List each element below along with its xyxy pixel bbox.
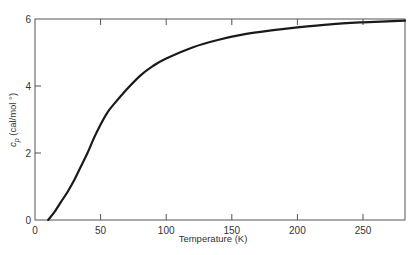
x-tick-label: 0 [32,225,38,236]
y-tick-label: 6 [25,14,31,25]
y-tick-label: 4 [25,81,31,92]
x-axis-label: Temperature (K) [179,233,248,244]
axis-ticks [35,19,363,220]
y-axis-label: cp (cal/mol °) [7,93,21,147]
y-axis-label-rest: (cal/mol °) [7,93,18,139]
y-tick-label: 2 [25,148,31,159]
x-tick-label: 250 [355,225,372,236]
plot-border [35,19,405,220]
x-tick-label: 100 [158,225,175,236]
y-tick-label: 0 [25,215,31,226]
plot-frame [35,19,405,220]
x-tick-label: 200 [289,225,306,236]
cp-curve [48,21,405,220]
tick-labels: 0501001502002500246 [25,14,371,236]
x-tick-label: 50 [95,225,107,236]
chart-svg: 0501001502002500246 Temperature (K) cp (… [0,0,412,255]
